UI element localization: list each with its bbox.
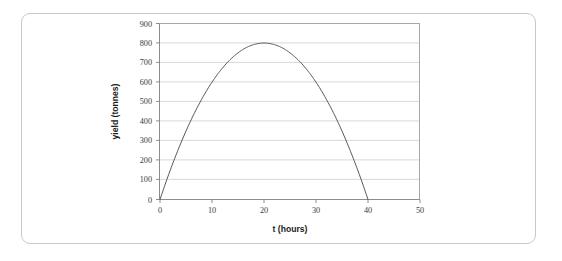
- y-tick-label: 800: [140, 39, 152, 48]
- y-tick-label: 400: [140, 117, 152, 126]
- plot-area: [160, 24, 420, 200]
- y-tick-label: 0: [148, 196, 152, 205]
- x-axis-title: t (hours): [273, 224, 308, 234]
- y-tick-label: 200: [140, 156, 152, 165]
- y-axis-ticks: [156, 24, 160, 200]
- x-tick-label: 0: [158, 206, 162, 215]
- x-tick-label: 40: [364, 206, 372, 215]
- x-tick-label: 20: [260, 206, 268, 215]
- x-tick-label: 50: [416, 206, 424, 215]
- y-tick-label: 300: [140, 136, 152, 145]
- x-tick-label: 30: [312, 206, 320, 215]
- x-tick-label: 10: [208, 206, 216, 215]
- yield-vs-time-chart: 900 800 700 600 500 400 300 200 100 0 0 …: [0, 0, 562, 261]
- y-tick-label: 500: [140, 97, 152, 106]
- x-axis-ticks: [160, 200, 420, 204]
- y-tick-label: 600: [140, 78, 152, 87]
- y-tick-label: 100: [140, 175, 152, 184]
- y-tick-label: 700: [140, 58, 152, 67]
- y-tick-label: 900: [140, 20, 152, 29]
- x-axis-tick-labels: 0 10 20 30 40 50: [158, 206, 424, 215]
- y-axis-tick-labels: 900 800 700 600 500 400 300 200 100 0: [140, 20, 152, 205]
- y-axis-title: yield (tonnes): [110, 83, 120, 139]
